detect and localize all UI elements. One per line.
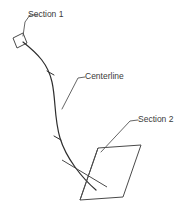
centerline-label: Centerline xyxy=(85,71,124,81)
centerline-tick-mark-1 xyxy=(47,71,54,75)
section-2-diagonal-2 xyxy=(80,148,98,200)
centerline-curve[interactable] xyxy=(23,42,96,190)
diagram-canvas: Section 1 Centerline Section 2 xyxy=(0,0,196,217)
section-loft-diagram: Section 1 Centerline Section 2 xyxy=(0,0,196,217)
section-1-label: Section 1 xyxy=(28,9,64,19)
section-2-diagonal-1 xyxy=(62,160,107,187)
centerline-leader-line xyxy=(62,77,85,109)
section-1-profile[interactable] xyxy=(13,33,27,48)
section-2-label: Section 2 xyxy=(138,114,174,124)
